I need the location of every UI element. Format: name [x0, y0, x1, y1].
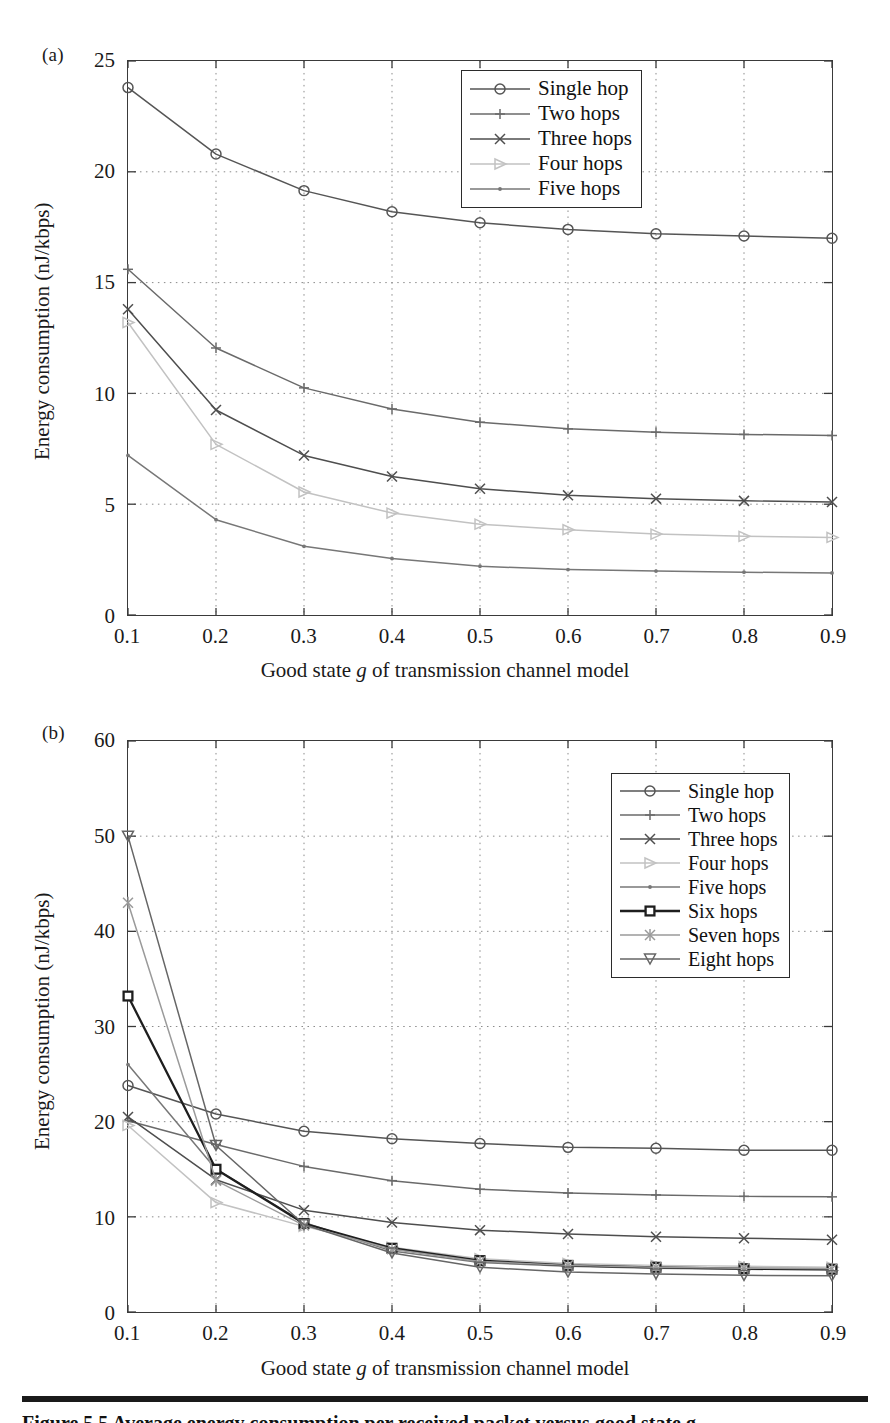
x-axis-title-suffix-a: of transmission channel model: [367, 658, 629, 682]
x-axis-title-italic-a: g: [356, 658, 367, 682]
x-tick-label: 0.4: [379, 624, 405, 649]
x-axis-title-italic-b: g: [356, 1356, 367, 1380]
data-point-three-hops: [123, 304, 133, 314]
y-tick-label: 10: [59, 1205, 115, 1230]
series-line-five-hops: [128, 1065, 832, 1271]
legend-swatch-square-icon: [619, 902, 681, 920]
data-point-two-hops: [651, 427, 661, 437]
figure-page: (a) 0510152025 0.10.20.30.40.50.60.70.80…: [0, 0, 890, 1423]
x-tick-label: 0.1: [114, 624, 140, 649]
y-axis-title-a: Energy consumption (nJ/kbps): [30, 203, 55, 460]
legend-swatch-cross-icon: [469, 130, 531, 148]
data-point-seven-hops: [123, 897, 133, 909]
data-point-five-hops: [126, 1063, 130, 1067]
legend-swatch-cross-icon: [619, 830, 681, 848]
legend-item-four-hops[interactable]: Four hops: [619, 851, 780, 875]
legend-item-three-hops[interactable]: Three hops: [469, 126, 632, 151]
series-line-six-hops: [128, 996, 832, 1269]
data-point-five-hops: [302, 544, 306, 548]
y-axis-ticks-a: 0510152025: [57, 0, 115, 700]
legend-swatch-dot-icon: [619, 878, 681, 896]
x-tick-label: 0.2: [202, 624, 228, 649]
legend-item-five-hops[interactable]: Five hops: [619, 875, 780, 899]
x-tick-label: 0.8: [732, 624, 758, 649]
legend-swatch-asterisk-icon: [619, 926, 681, 944]
x-axis-ticks-a: 0.10.20.30.40.50.60.70.80.9: [127, 624, 833, 654]
legend-swatch-circle-icon: [469, 80, 531, 98]
y-tick-label: 60: [59, 728, 115, 753]
legend-label: Five hops: [538, 178, 620, 199]
legend-marker-square-icon: [646, 907, 655, 916]
legend-b: Single hopTwo hopsThree hopsFour hopsFiv…: [611, 773, 790, 978]
legend-label: Two hops: [688, 805, 766, 825]
data-point-five-hops: [654, 569, 658, 573]
legend-item-two-hops[interactable]: Two hops: [469, 101, 632, 126]
data-point-two-hops: [651, 1190, 661, 1200]
x-axis-title-suffix-b: of transmission channel model: [367, 1356, 629, 1380]
y-tick-label: 40: [59, 919, 115, 944]
x-tick-label: 0.6: [555, 624, 581, 649]
x-axis-ticks-b: 0.10.20.30.40.50.60.70.80.9: [127, 1321, 833, 1351]
x-tick-label: 0.9: [820, 1321, 846, 1346]
data-point-five-hops: [126, 454, 130, 458]
y-tick-label: 15: [59, 270, 115, 295]
x-tick-label: 0.7: [643, 624, 669, 649]
legend-label: Three hops: [538, 128, 632, 149]
legend-swatch-triangle-right-icon: [469, 155, 531, 173]
data-point-two-hops: [739, 429, 749, 439]
legend-label: Two hops: [538, 103, 620, 124]
legend-label: Three hops: [688, 829, 777, 849]
x-tick-label: 0.7: [643, 1321, 669, 1346]
legend-label: Six hops: [688, 901, 757, 921]
chart-panel-a: (a) 0510152025 0.10.20.30.40.50.60.70.80…: [0, 0, 890, 700]
y-tick-label: 20: [59, 159, 115, 184]
data-point-two-hops: [299, 383, 309, 393]
legend-swatch-dot-icon: [469, 180, 531, 198]
x-axis-title-b: Good state g of transmission channel mod…: [0, 1356, 890, 1381]
legend-marker-dot-icon: [498, 187, 502, 191]
y-tick-label: 50: [59, 823, 115, 848]
x-tick-label: 0.3: [290, 1321, 316, 1346]
legend-item-eight-hops[interactable]: Eight hops: [619, 947, 780, 971]
data-point-two-hops: [563, 424, 573, 434]
data-point-five-hops: [214, 518, 218, 522]
x-tick-label: 0.6: [555, 1321, 581, 1346]
legend-item-single-hop[interactable]: Single hop: [469, 76, 632, 101]
data-point-two-hops: [299, 1161, 309, 1171]
legend-item-two-hops[interactable]: Two hops: [619, 803, 780, 827]
legend-item-four-hops[interactable]: Four hops: [469, 151, 632, 176]
data-point-two-hops: [827, 1192, 837, 1202]
x-tick-label: 0.2: [202, 1321, 228, 1346]
legend-item-three-hops[interactable]: Three hops: [619, 827, 780, 851]
x-axis-title-prefix-a: Good state: [261, 658, 357, 682]
caption-divider-rule: [22, 1396, 868, 1402]
legend-marker-plus-icon: [495, 109, 505, 119]
data-point-three-hops: [211, 405, 221, 415]
legend-label: Five hops: [688, 877, 766, 897]
legend-label: Four hops: [538, 153, 623, 174]
x-tick-label: 0.8: [732, 1321, 758, 1346]
y-tick-label: 0: [59, 1301, 115, 1326]
legend-item-five-hops[interactable]: Five hops: [469, 176, 632, 201]
legend-swatch-plus-icon: [469, 105, 531, 123]
legend-label: Eight hops: [688, 949, 774, 969]
legend-swatch-triangle-down-icon: [619, 950, 681, 968]
legend-item-seven-hops[interactable]: Seven hops: [619, 923, 780, 947]
y-axis-ticks-b: 0102030405060: [57, 680, 115, 1360]
x-tick-label: 0.5: [467, 624, 493, 649]
x-tick-label: 0.9: [820, 624, 846, 649]
legend-swatch-circle-icon: [619, 782, 681, 800]
y-tick-label: 0: [59, 604, 115, 629]
series-line-five-hops: [128, 455, 832, 572]
x-tick-label: 0.1: [114, 1321, 140, 1346]
y-tick-label: 5: [59, 492, 115, 517]
y-tick-label: 20: [59, 1110, 115, 1135]
legend-label: Single hop: [688, 781, 774, 801]
legend-a: Single hopTwo hopsThree hopsFour hopsFiv…: [461, 70, 642, 208]
data-point-five-hops: [566, 568, 570, 572]
y-tick-label: 30: [59, 1014, 115, 1039]
legend-item-single-hop[interactable]: Single hop: [619, 779, 780, 803]
y-tick-label: 25: [59, 48, 115, 73]
legend-marker-plus-icon: [645, 810, 655, 820]
legend-item-six-hops[interactable]: Six hops: [619, 899, 780, 923]
